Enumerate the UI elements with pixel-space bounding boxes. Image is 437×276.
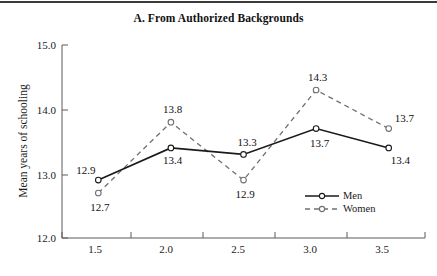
data-label-women-1: 13.8: [163, 103, 182, 115]
data-label-women-4: 13.7: [395, 112, 414, 124]
data-point-men-3: [313, 126, 319, 132]
data-point-women-2: [241, 177, 247, 183]
data-point-men-1: [168, 145, 174, 151]
data-label-men-3: 13.7: [310, 137, 329, 149]
data-label-men-1: 13.4: [163, 154, 182, 166]
chart-figure: A. From Authorized Backgrounds Mean year…: [0, 0, 437, 276]
legend-key-women-glyph: [305, 203, 339, 215]
data-label-men-0: 12.9: [76, 164, 95, 176]
legend-item-men: Men: [305, 189, 375, 202]
data-point-women-0: [96, 190, 102, 196]
chart-legend: Men Women: [305, 189, 375, 215]
legend-key-men-glyph: [305, 190, 339, 202]
legend-item-women: Women: [305, 202, 375, 215]
data-label-women-3: 14.3: [308, 71, 327, 83]
legend-label-women: Women: [343, 202, 375, 215]
legend-label-men: Men: [343, 189, 362, 202]
data-point-men-4: [386, 145, 392, 151]
data-label-women-0: 12.7: [90, 201, 109, 213]
data-point-women-3: [313, 87, 319, 93]
legend-key-men: [305, 190, 339, 202]
data-point-men-0: [96, 177, 102, 183]
data-label-men-2: 13.3: [238, 136, 257, 148]
data-label-women-2: 12.9: [236, 188, 255, 200]
plot-area: [0, 0, 437, 276]
data-point-men-2: [241, 152, 247, 158]
data-label-men-4: 13.4: [391, 154, 410, 166]
legend-key-women: [305, 203, 339, 215]
data-point-women-4: [386, 126, 392, 132]
data-point-women-1: [168, 119, 174, 125]
series-markers-men: [96, 126, 392, 183]
